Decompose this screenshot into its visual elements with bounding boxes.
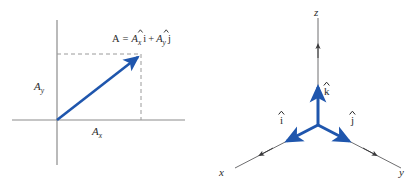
x-component-subscript: x	[98, 131, 103, 140]
equation-term1-unit-i: i	[143, 33, 146, 44]
svg-text:Ay: Ay	[33, 80, 45, 95]
unit-vector-j-letter: j	[350, 114, 354, 126]
vector-a-arrow	[57, 57, 138, 120]
unit-vector-k-letter: k	[324, 85, 330, 97]
y-axis-label: y	[398, 166, 404, 178]
y-axis-direction-arrow	[363, 148, 376, 155]
svg-text:A=Axi+Ayj: A=Axi+Ayj	[112, 33, 171, 47]
equation-term2-subscript: y	[162, 38, 167, 47]
equation-plus: +	[148, 33, 154, 44]
y-component-subscript: y	[40, 86, 45, 95]
unit-vector-i-arrow	[287, 125, 318, 141]
unit-vector-j-arrow	[318, 125, 349, 141]
equation-j-hat-accent	[164, 30, 168, 33]
unit-vector-k-label: k	[324, 82, 330, 97]
svg-text:Ax: Ax	[91, 125, 103, 140]
panel-2d-vector-decomposition: A=Axi+Ayj Ay Ax	[0, 0, 205, 185]
x-axis-direction-arrow	[260, 148, 273, 155]
unit-vector-j-label: j	[350, 111, 356, 126]
vector-figure: A=Axi+Ayj Ay Ax	[0, 0, 411, 185]
vector-a-equation-label: A=Axi+Ayj	[112, 30, 171, 47]
x-component-label: Ax	[91, 125, 103, 140]
equation-term2-unit-j: j	[167, 33, 171, 44]
equation-vector-symbol: A	[112, 33, 120, 44]
equation-term1-subscript: x	[137, 38, 142, 47]
unit-vector-i-label: i	[279, 111, 285, 126]
equation-i-hat-accent	[138, 30, 142, 33]
equation-equals: =	[123, 33, 129, 44]
panel-3d-unit-vectors: z x y k i j	[205, 0, 411, 185]
unit-vector-i-letter: i	[280, 114, 283, 126]
y-component-label: Ay	[33, 80, 45, 95]
z-axis-label: z	[313, 6, 319, 18]
x-axis-label: x	[218, 166, 224, 178]
